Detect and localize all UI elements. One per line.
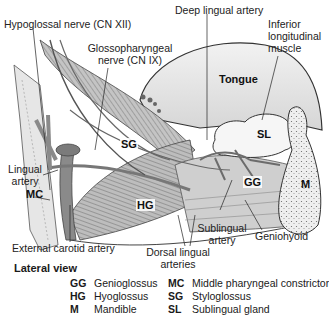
label-line: Glossopharyngeal	[80, 42, 180, 54]
legend-abbr: GG	[70, 277, 90, 290]
legend-name: Hyoglossus	[94, 290, 148, 302]
label-tongue: Tongue	[218, 73, 259, 85]
legend-name: Genioglossus	[94, 277, 158, 289]
legend-abbr: M	[70, 303, 90, 316]
legend-abbr: SG	[168, 290, 188, 303]
legend-name: Sublingual gland	[192, 303, 270, 315]
label-line: Lingual	[4, 163, 46, 175]
label-line: muscle	[268, 42, 321, 54]
label-sublingual-artery: Sublingual artery	[196, 222, 248, 246]
legend-abbr: SL	[168, 303, 188, 316]
legend-item: SLSublingual gland	[168, 303, 270, 316]
legend-name: Styloglossus	[192, 290, 251, 302]
legend-item: HGHyoglossus	[70, 290, 148, 303]
label-external-carotid-artery: External carotid artery	[12, 242, 115, 254]
label-geniohyoid: Geniohyoid	[255, 230, 308, 242]
label-inferior-longitudinal-muscle: Inferior longitudinal muscle	[268, 18, 321, 54]
external-carotid	[60, 150, 76, 240]
label-sl: SL	[256, 128, 272, 140]
label-line: longitudinal	[268, 30, 321, 42]
label-line: artery	[4, 175, 46, 187]
legend-abbr: MC	[168, 277, 188, 290]
label-line: Inferior	[268, 18, 321, 30]
legend-item: MCMiddle pharyngeal constrictor	[168, 277, 329, 290]
label-line: Dorsal lingual	[140, 246, 216, 258]
legend-item: MMandible	[70, 303, 137, 316]
label-line: arteries	[140, 258, 216, 270]
label-lingual-artery: Lingual artery	[4, 163, 46, 187]
legend-name: Mandible	[94, 303, 137, 315]
legend-item: SGStyloglossus	[168, 290, 251, 303]
legend-item: GGGenioglossus	[70, 277, 158, 290]
label-hg: HG	[136, 199, 155, 211]
label-sg: SG	[120, 138, 138, 150]
label-m: M	[300, 178, 311, 190]
label-dorsal-lingual-arteries: Dorsal lingual arteries	[140, 246, 216, 270]
label-mc: MC	[25, 188, 44, 200]
label-line: nerve (CN IX)	[80, 54, 180, 66]
label-glossopharyngeal-nerve: Glossopharyngeal nerve (CN IX)	[80, 42, 180, 66]
legend-abbr: HG	[70, 290, 90, 303]
view-title: Lateral view	[14, 262, 77, 274]
legend-name: Middle pharyngeal constrictor	[192, 277, 329, 289]
label-line: Sublingual	[196, 222, 248, 234]
label-gg: GG	[243, 176, 262, 188]
label-hypoglossal-nerve: Hypoglossal nerve (CN XII)	[4, 18, 131, 30]
label-line: artery	[196, 234, 248, 246]
label-deep-lingual-artery: Deep lingual artery	[175, 4, 263, 16]
